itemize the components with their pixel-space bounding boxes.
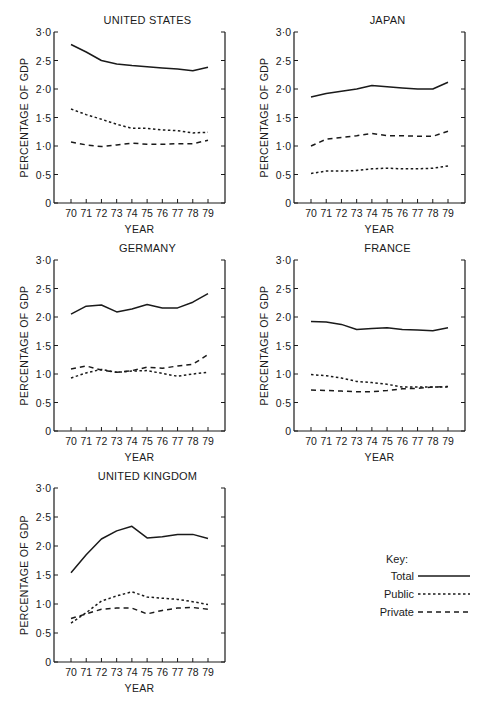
x-tick-label: 72 — [96, 666, 108, 678]
x-tick-label: 75 — [381, 435, 393, 447]
y-tick-label: 1·0 — [36, 598, 51, 610]
y-tick-label: 0 — [45, 197, 51, 209]
x-tick-label: 73 — [351, 435, 363, 447]
x-tick-label: 74 — [126, 207, 138, 219]
legend-item-private: Private — [380, 605, 470, 619]
x-tick-label: 77 — [172, 435, 184, 447]
x-axis-label: YEAR — [125, 682, 155, 694]
chart-title: GERMANY — [119, 242, 176, 254]
x-tick-label: 71 — [320, 435, 332, 447]
y-axis-label: PERCENTAGE OF GDP — [258, 286, 270, 406]
series-total-line — [71, 526, 208, 572]
chart-title: JAPAN — [370, 14, 406, 26]
legend-item-total: Total — [391, 569, 470, 583]
y-tick-label: 2·0 — [36, 83, 51, 95]
y-axis-label: PERCENTAGE OF GDP — [18, 58, 30, 178]
x-tick-label: 79 — [442, 207, 454, 219]
x-tick-label: 77 — [412, 207, 424, 219]
x-tick-label: 70 — [305, 207, 317, 219]
legend-label: Total — [391, 570, 414, 582]
y-tick-label: 1·0 — [36, 140, 51, 152]
x-tick-label: 78 — [427, 435, 439, 447]
x-tick-label: 75 — [381, 207, 393, 219]
x-tick-label: 73 — [351, 207, 363, 219]
x-tick-label: 70 — [65, 666, 77, 678]
y-tick-label: 1·0 — [276, 140, 291, 152]
x-tick-label: 73 — [111, 207, 123, 219]
series-private-line — [311, 131, 448, 146]
x-tick-label: 76 — [396, 435, 408, 447]
x-tick-label: 79 — [442, 435, 454, 447]
series-private-line — [71, 608, 208, 619]
series-public-line — [311, 375, 448, 388]
series-public-line — [311, 166, 448, 174]
y-tick-label: 2·5 — [276, 283, 291, 295]
series-private-line — [71, 355, 208, 373]
y-tick-label: 3·0 — [276, 26, 291, 38]
y-tick-label: 0 — [45, 656, 51, 668]
y-tick-label: 1·0 — [276, 368, 291, 380]
y-tick-label: 3·0 — [36, 482, 51, 494]
x-tick-label: 73 — [111, 666, 123, 678]
x-tick-label: 78 — [427, 207, 439, 219]
x-tick-label: 76 — [156, 666, 168, 678]
x-tick-label: 77 — [412, 435, 424, 447]
y-tick-label: 2·0 — [36, 311, 51, 323]
y-tick-label: 2·5 — [36, 283, 51, 295]
x-tick-label: 78 — [187, 207, 199, 219]
x-tick-label: 75 — [141, 207, 153, 219]
y-tick-label: 2·0 — [276, 83, 291, 95]
series-public-line — [71, 369, 208, 378]
solid-line-swatch-icon — [418, 573, 470, 579]
y-tick-label: 0·5 — [276, 169, 291, 181]
y-tick-label: 0 — [285, 197, 291, 209]
chart-germany: GERMANY00·51·01·52·02·53·070717273747576… — [0, 228, 240, 458]
x-tick-label: 79 — [202, 666, 214, 678]
x-tick-label: 79 — [202, 435, 214, 447]
x-tick-label: 78 — [187, 435, 199, 447]
x-tick-label: 75 — [141, 666, 153, 678]
chart-svg: JAPAN00·51·01·52·02·53·07071727374757677… — [240, 0, 479, 230]
y-tick-label: 0·5 — [36, 397, 51, 409]
y-tick-label: 2·0 — [36, 540, 51, 552]
x-tick-label: 74 — [126, 666, 138, 678]
x-tick-label: 76 — [156, 435, 168, 447]
x-tick-label: 79 — [202, 207, 214, 219]
chart-japan: JAPAN00·51·01·52·02·53·07071727374757677… — [240, 0, 479, 230]
chart-title: FRANCE — [364, 242, 410, 254]
x-tick-label: 71 — [80, 207, 92, 219]
x-tick-label: 77 — [172, 666, 184, 678]
chart-svg: UNITED STATES00·51·01·52·02·53·070717273… — [0, 0, 240, 230]
y-tick-label: 2·5 — [276, 55, 291, 67]
x-tick-label: 72 — [336, 207, 348, 219]
y-tick-label: 2·5 — [36, 511, 51, 523]
y-tick-label: 1·5 — [36, 569, 51, 581]
x-tick-label: 74 — [366, 435, 378, 447]
x-tick-label: 72 — [96, 207, 108, 219]
x-tick-label: 70 — [65, 207, 77, 219]
x-tick-label: 76 — [396, 207, 408, 219]
x-axis-label: YEAR — [365, 451, 395, 463]
legend-label: Public — [384, 588, 414, 600]
x-tick-label: 73 — [111, 435, 123, 447]
x-tick-label: 74 — [126, 435, 138, 447]
chart-united-states: UNITED STATES00·51·01·52·02·53·070717273… — [0, 0, 240, 230]
x-tick-label: 75 — [141, 435, 153, 447]
series-total-line — [311, 82, 448, 97]
series-total-line — [311, 322, 448, 331]
y-tick-label: 0 — [285, 425, 291, 437]
chart-title: UNITED STATES — [104, 14, 192, 26]
y-tick-label: 3·0 — [36, 26, 51, 38]
legend-item-public: Public — [384, 587, 470, 601]
x-tick-label: 77 — [172, 207, 184, 219]
x-tick-label: 70 — [305, 435, 317, 447]
chart-svg: FRANCE00·51·01·52·02·53·0707172737475767… — [240, 228, 479, 458]
y-tick-label: 1·5 — [276, 340, 291, 352]
y-tick-label: 0·5 — [276, 397, 291, 409]
dashed-line-swatch-icon — [418, 609, 470, 615]
series-total-line — [71, 294, 208, 315]
x-tick-label: 76 — [156, 207, 168, 219]
y-axis-label: PERCENTAGE OF GDP — [258, 58, 270, 178]
y-tick-label: 2·0 — [276, 311, 291, 323]
y-tick-label: 0·5 — [36, 169, 51, 181]
